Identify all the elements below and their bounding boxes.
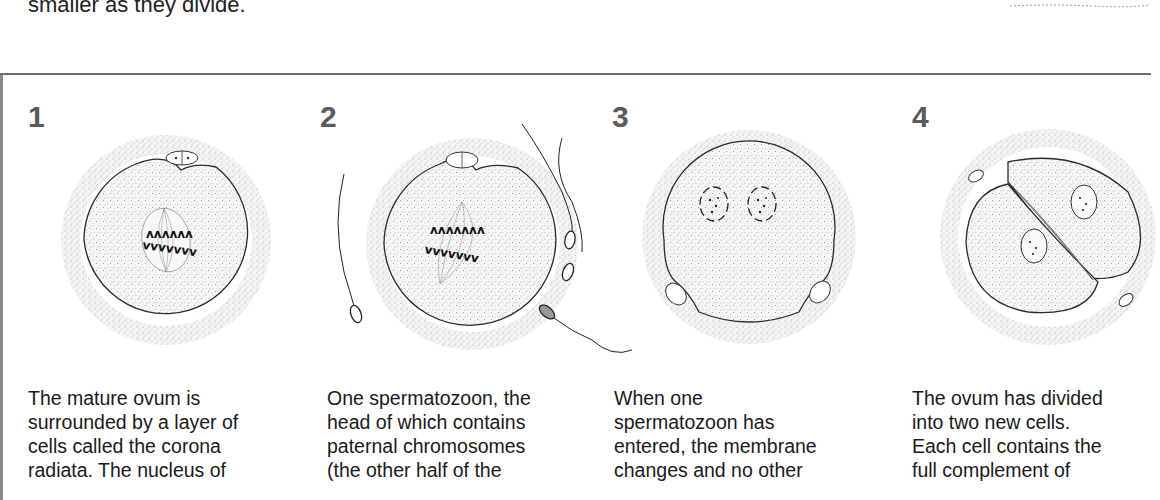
top-caption-fragment: smaller as they divide. [28,0,246,18]
stage-panel-3: 3 When one spermatozoon has entered, the… [610,100,890,500]
partial-illustration-fragment [1010,0,1150,10]
spermatozoa-ovum-illustration: ᴧᴧᴧᴧᴧᴧᴧ vvvvvvv [322,122,642,384]
horizontal-divider [0,73,1151,75]
svg-text:ᴧᴧᴧᴧᴧᴧᴧ: ᴧᴧᴧᴧᴧᴧᴧ [430,223,485,237]
left-border [0,75,3,500]
stage-panel-1: 1 ᴧᴧᴧᴧᴧᴧ vvvvvvv The mature ovum is surr… [20,100,300,500]
step-number: 1 [28,100,45,134]
stage-caption: One spermatozoon, the head of which cont… [327,386,577,482]
stage-caption: The mature ovum is surrounded by a layer… [28,386,278,482]
stage-panel-4: 4 The ovum has divided into two new cell… [898,100,1160,500]
step-number: 3 [612,100,629,134]
mature-ovum-illustration: ᴧᴧᴧᴧᴧᴧ vvvvvvv [46,122,286,362]
two-cell-ovum-illustration [928,122,1160,352]
step-number: 4 [912,100,929,134]
stage-caption: When one spermatozoon has entered, the m… [614,386,864,482]
stage-panel-2: 2 ᴧᴧᴧᴧᴧᴧᴧ vvvvvvv One spermatozoon, the … [312,100,592,500]
pronuclei-ovum-illustration [634,122,864,352]
stage-caption: The ovum has divided into two new cells.… [912,386,1160,482]
